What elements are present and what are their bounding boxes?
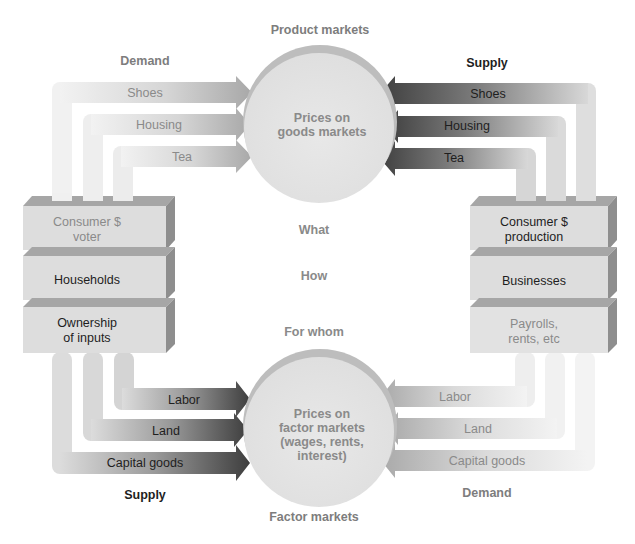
factor-circle-line4: interest) — [297, 449, 346, 463]
businesses-middle: Businesses — [502, 274, 566, 288]
question-for-whom: For whom — [284, 325, 344, 339]
demand-arrow-label-tea: Tea — [172, 150, 192, 164]
circular-flow-diagram: Product markets Demand Supply Shoes Hous… — [0, 0, 635, 544]
product-supply-label: Supply — [466, 56, 508, 70]
factor-circle-line3: (wages, rents, — [280, 435, 363, 449]
households-top-line1: Consumer $ — [53, 215, 121, 229]
businesses-top-line1: Consumer $ — [500, 215, 568, 229]
factor-circle-line1: Prices on — [294, 407, 350, 421]
businesses-bottom-line1: Payrolls, — [510, 317, 558, 331]
households-bottom-line2: of inputs — [63, 331, 110, 345]
supply-arrow-label-housing: Housing — [444, 119, 490, 133]
factor-demand-label: Demand — [462, 486, 511, 500]
supply-arrow-label-tea: Tea — [444, 151, 464, 165]
households-top-line2: voter — [73, 230, 101, 244]
households-middle: Households — [54, 273, 120, 287]
businesses-bottom-line2: rents, etc — [508, 332, 559, 346]
factor-demand-label-land: Land — [464, 422, 492, 436]
supply-arrow-label-shoes: Shoes — [470, 87, 505, 101]
question-what: What — [299, 223, 330, 237]
demand-arrow-label-shoes: Shoes — [127, 86, 162, 100]
product-circle-line2: goods markets — [278, 125, 367, 139]
factor-circle-line2: factor markets — [279, 421, 365, 435]
businesses-top-line2: production — [505, 230, 563, 244]
factor-supply-label-labor: Labor — [168, 393, 200, 407]
factor-supply-label: Supply — [124, 488, 166, 502]
product-markets-title: Product markets — [271, 23, 370, 37]
question-how: How — [301, 269, 328, 283]
factor-demand-label-labor: Labor — [439, 390, 471, 404]
factor-demand-label-capital: Capital goods — [449, 454, 525, 468]
product-circle-line1: Prices on — [294, 111, 350, 125]
factor-supply-label-land: Land — [152, 424, 180, 438]
demand-arrow-label-housing: Housing — [136, 118, 182, 132]
product-demand-label: Demand — [120, 54, 169, 68]
factor-markets-title: Factor markets — [269, 510, 359, 524]
households-bottom-line1: Ownership — [57, 316, 117, 330]
factor-supply-label-capital: Capital goods — [107, 456, 183, 470]
